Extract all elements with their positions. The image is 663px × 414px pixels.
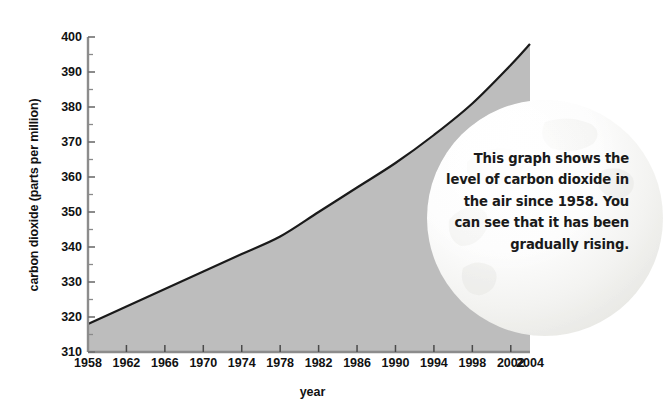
callout-text-line: gradually rising. (443, 234, 629, 255)
callout-text-line: level of carbon dioxide in (443, 169, 629, 190)
callout-text-line: can see that it has been (443, 212, 629, 233)
callout-text-line: the air since 1958. You (443, 191, 629, 212)
callout-text: This graph shows thelevel of carbon diox… (443, 148, 629, 255)
callout-text-line: This graph shows the (443, 148, 629, 169)
x-tick-label: 2004 (507, 357, 553, 370)
callout-bubble: This graph shows thelevel of carbon diox… (427, 100, 663, 336)
